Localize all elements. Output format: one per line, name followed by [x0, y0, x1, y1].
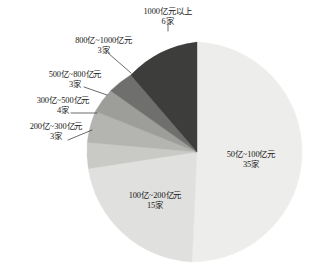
pie-label-100-200: 100亿~200亿元 15家 — [105, 191, 205, 212]
pie-label-200-300: 200亿~300亿元 3家 — [0, 122, 112, 143]
pie-label-500-800-count: 3家 — [20, 80, 130, 90]
pie-label-100-200-count: 15家 — [105, 201, 205, 211]
pie-label-800-1000-category: 800亿~1000亿元 — [46, 36, 161, 46]
pie-label-50-100: 50亿~100亿元 35家 — [200, 150, 302, 171]
pie-label-50-100-count: 35家 — [200, 160, 302, 170]
pie-label-200-300-category: 200亿~300亿元 — [0, 122, 112, 132]
pie-label-500-800: 500亿~800亿元 3家 — [20, 70, 130, 91]
pie-label-300-500: 300亿~500亿元 4家 — [8, 96, 118, 117]
pie-label-1000-plus-count: 6家 — [115, 17, 220, 27]
pie-label-800-1000-count: 3家 — [46, 46, 161, 56]
pie-label-300-500-category: 300亿~500亿元 — [8, 96, 118, 106]
pie-label-300-500-count: 4家 — [8, 106, 118, 116]
pie-label-50-100-category: 50亿~100亿元 — [200, 150, 302, 160]
pie-chart-figure: 1000亿元以上 6家 800亿~1000亿元 3家 500亿~800亿元 3家… — [0, 0, 320, 278]
pie-label-800-1000: 800亿~1000亿元 3家 — [46, 36, 161, 57]
pie-label-500-800-category: 500亿~800亿元 — [20, 70, 130, 80]
pie-label-1000-plus-category: 1000亿元以上 — [115, 7, 220, 17]
pie-label-200-300-count: 3家 — [0, 132, 112, 142]
pie-label-100-200-category: 100亿~200亿元 — [105, 191, 205, 201]
pie-label-1000-plus: 1000亿元以上 6家 — [115, 7, 220, 28]
